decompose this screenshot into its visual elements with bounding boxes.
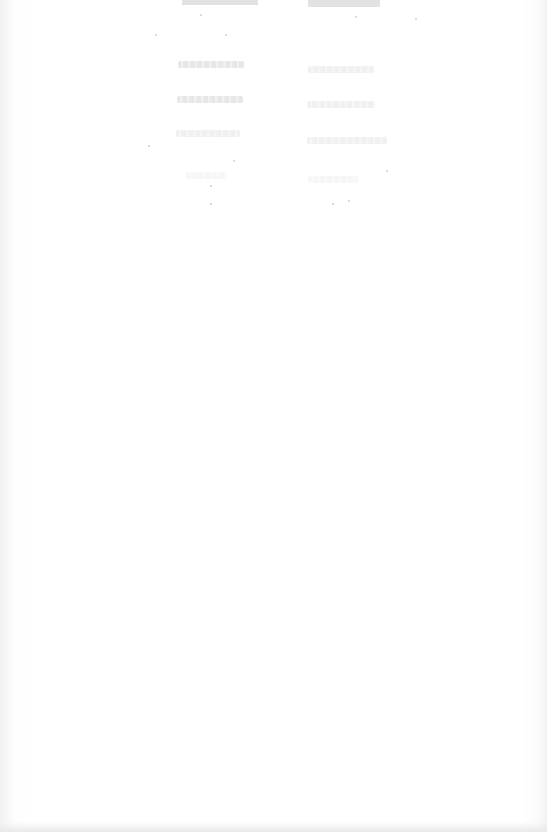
speck	[155, 34, 157, 36]
speck	[415, 18, 417, 20]
speck	[332, 203, 334, 205]
row-3-left-text	[176, 130, 240, 137]
speck	[233, 160, 235, 162]
row-1-right-text	[308, 66, 374, 73]
header-fragment-right	[308, 0, 380, 7]
row-4-left-text	[186, 172, 226, 179]
row-4-right-text	[308, 176, 358, 183]
row-1-left-text	[178, 61, 244, 68]
speck	[225, 34, 227, 36]
speck	[200, 14, 202, 16]
header-fragment-left	[182, 0, 258, 5]
speck	[210, 185, 212, 187]
speck	[210, 203, 212, 205]
speck	[348, 200, 350, 202]
row-2-left-text	[177, 96, 243, 103]
document-page	[0, 0, 547, 832]
speck	[386, 170, 388, 172]
speck	[355, 16, 357, 18]
row-2-right-text	[307, 101, 375, 108]
speck	[148, 145, 150, 147]
row-3-right-text	[307, 137, 387, 144]
